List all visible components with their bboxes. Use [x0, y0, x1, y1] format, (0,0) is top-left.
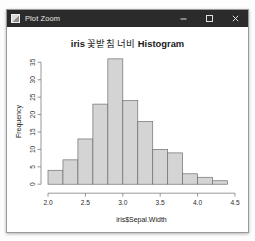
minimize-button[interactable]: [170, 10, 196, 27]
close-button[interactable]: [222, 10, 248, 27]
x-axis-tick-label: 3.5: [156, 199, 166, 206]
histogram-bar: [108, 59, 123, 184]
window-titlebar[interactable]: Plot Zoom: [7, 10, 248, 27]
y-axis-tick-label: 35: [29, 58, 36, 66]
x-axis-tick-label: 3.0: [118, 199, 128, 206]
window-controls: [170, 10, 248, 27]
histogram-bar: [213, 181, 228, 184]
y-axis-tick-label: 30: [29, 76, 36, 84]
histogram-bar: [168, 153, 183, 184]
close-icon: [231, 14, 240, 23]
histogram-bar: [198, 177, 213, 184]
app-icon: [11, 14, 20, 23]
histogram-bar: [48, 170, 63, 184]
plot-title: iris 꽃받침 너비 Histogram: [71, 39, 184, 49]
histogram-bar: [183, 174, 198, 184]
x-axis-tick-label: 2.0: [43, 199, 53, 206]
histogram-bar: [123, 101, 138, 185]
y-axis-tick-label: 20: [29, 111, 36, 119]
histogram-bar: [153, 149, 168, 184]
histogram-plot: iris 꽃받침 너비 Histogram 05101520253035 2.0…: [7, 27, 248, 232]
histogram-bar: [63, 160, 78, 184]
y-axis-tick-label: 25: [29, 93, 36, 101]
screen: Plot Zoom: [0, 0, 255, 241]
plot-client-area: iris 꽃받침 너비 Histogram 05101520253035 2.0…: [7, 27, 248, 232]
maximize-icon: [205, 14, 214, 23]
plot-zoom-window: Plot Zoom: [6, 9, 249, 233]
x-axis-tick-label: 4.5: [230, 199, 240, 206]
plot-svg: iris 꽃받침 너비 Histogram 05101520253035 2.0…: [7, 27, 248, 232]
histogram-bar: [93, 104, 108, 184]
x-axis-tick-label: 4.0: [193, 199, 203, 206]
y-axis-tick-label: 15: [29, 128, 36, 136]
y-axis-label: Frequency: [15, 105, 23, 138]
y-axis-tick-label: 5: [29, 165, 36, 169]
maximize-button[interactable]: [196, 10, 222, 27]
histogram-bar: [78, 139, 93, 184]
minimize-icon: [179, 14, 188, 23]
x-axis-label: iris$Sepal.Width: [116, 216, 167, 224]
window-title: Plot Zoom: [25, 14, 60, 23]
histogram-bar: [138, 122, 153, 185]
x-axis-tick-label: 2.5: [81, 199, 91, 206]
y-axis-tick-label: 10: [29, 145, 36, 153]
y-axis-tick-label: 0: [29, 182, 36, 186]
